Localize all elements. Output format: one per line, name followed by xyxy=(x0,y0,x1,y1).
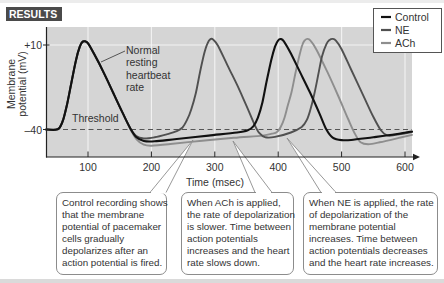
callout-line: increases and the heart xyxy=(187,245,293,257)
x-tick-label-500: 500 xyxy=(333,161,351,173)
callout-line: is slower. Time between xyxy=(187,221,293,233)
callout-line: depolarizes after an xyxy=(62,245,166,257)
callout-line: rate slows down. xyxy=(187,257,293,269)
annotation-normal-line-3: heartbeat xyxy=(126,69,170,81)
y-axis-label-line-2: potential (mV) xyxy=(16,51,28,116)
legend-label-ach: ACh xyxy=(395,37,416,49)
callout-line: the rate of depolarization xyxy=(187,209,293,221)
legend-label-control: Control xyxy=(395,11,429,23)
callout-ne: When NE is applied, the rate of depolari… xyxy=(303,192,438,275)
results-badge-label: RESULTS xyxy=(9,8,57,20)
legend-label-ne: NE xyxy=(395,24,410,36)
threshold-label: Threshold xyxy=(72,112,119,124)
y-tick-label-plus10: +10 xyxy=(24,39,42,51)
callout-line: and the heart rate increases. xyxy=(309,257,437,269)
bottom-border-band xyxy=(0,279,444,283)
callout-line: potential of pacemaker xyxy=(62,221,166,233)
callout-control: Control recording shows that the membran… xyxy=(56,192,167,275)
x-axis-label: Time (msec) xyxy=(186,176,244,188)
x-tick-label-200: 200 xyxy=(143,161,161,173)
callout-line: cells gradually xyxy=(62,233,166,245)
x-tick-label-400: 400 xyxy=(269,161,287,173)
annotation-normal-line-4: rate xyxy=(126,81,144,93)
callout-line: that the membrane xyxy=(62,209,166,221)
callout-line: action potential is fired. xyxy=(62,257,166,269)
results-badge: RESULTS xyxy=(6,7,62,21)
callout-line: When ACh is applied, xyxy=(187,197,293,209)
annotation-normal-line-2: resting xyxy=(126,56,158,68)
callout-line: membrane potential xyxy=(309,221,437,233)
callout-line: action potentials xyxy=(187,233,293,245)
legend: Control NE ACh xyxy=(374,9,442,53)
x-tick-label-100: 100 xyxy=(79,161,97,173)
callout-line: Control recording shows xyxy=(62,197,166,209)
x-tick-label-600: 600 xyxy=(396,161,414,173)
callout-line: action potentials decreases xyxy=(309,245,437,257)
callout-ach: When ACh is applied, the rate of depolar… xyxy=(181,192,294,275)
x-axis-arrow-icon xyxy=(413,154,420,160)
y-tick-label-minus40: –40 xyxy=(24,124,42,136)
annotation-normal-line-1: Normal xyxy=(126,44,160,56)
x-tick-label-300: 300 xyxy=(206,161,224,173)
callout-line: When NE is applied, the rate xyxy=(309,197,437,209)
callout-line: increases. Time between xyxy=(309,233,437,245)
callout-line: of depolarization of the xyxy=(309,209,437,221)
